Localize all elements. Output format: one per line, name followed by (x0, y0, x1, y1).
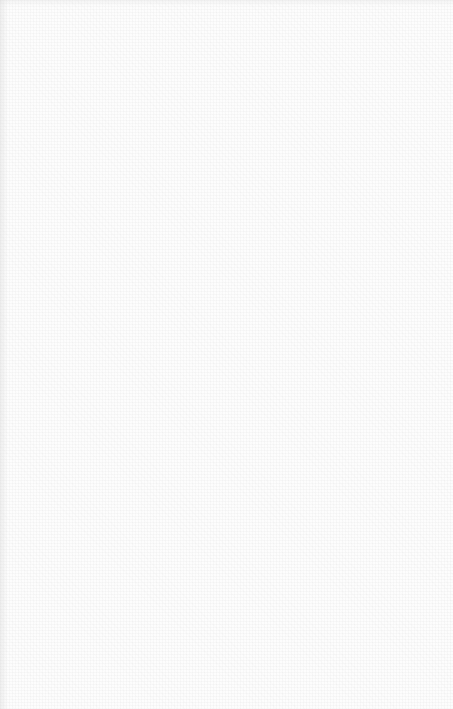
blank-textured-canvas (0, 0, 453, 709)
top-edge-shading (0, 0, 453, 6)
left-edge-shading (0, 0, 8, 709)
